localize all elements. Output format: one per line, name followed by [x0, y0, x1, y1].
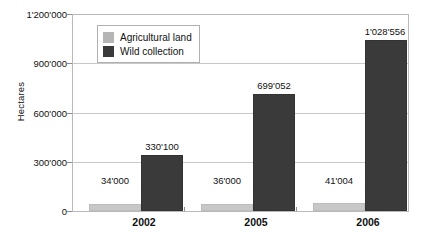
x-axis-label-2005: 2005: [200, 216, 312, 228]
legend-label-agricultural-land: Agricultural land: [120, 32, 192, 43]
gridline-600000: [73, 113, 408, 114]
bar-chart: Hectares 1'200'000 900'000 600'000 300'0…: [0, 0, 423, 244]
gridline-900000: [73, 63, 408, 64]
plot-area: 34'000 330'100 36'000 699'052 41'004 1'0…: [72, 14, 409, 212]
legend-label-wild-collection: Wild collection: [120, 46, 184, 57]
x-tick-separator-1: [184, 207, 185, 211]
bar-wild-collection-2002[interactable]: [141, 155, 183, 211]
bar-label-wild-collection-2006: 1'028'556: [345, 26, 423, 37]
y-tick-label-900000: 900'000: [0, 58, 67, 69]
gridline-300000: [73, 162, 408, 163]
bar-agricultural-land-2006[interactable]: [313, 203, 365, 211]
x-axis-label-2002: 2002: [88, 216, 200, 228]
bar-wild-collection-2006[interactable]: [365, 40, 407, 211]
y-tick-label-300000: 300'000: [0, 157, 67, 168]
x-tick-separator-2: [296, 207, 297, 211]
y-tick-label-0: 0: [0, 206, 67, 217]
bar-label-wild-collection-2005: 699'052: [240, 80, 308, 91]
bar-label-agricultural-land-2002: 34'000: [81, 175, 149, 186]
legend-swatch-icon-wild-collection: [103, 46, 114, 57]
legend: Agricultural land Wild collection: [97, 25, 200, 63]
x-axis-label-2006: 2006: [312, 216, 423, 228]
bar-agricultural-land-2005[interactable]: [201, 204, 253, 211]
bar-wild-collection-2005[interactable]: [253, 94, 295, 211]
bar-label-agricultural-land-2006: 41'004: [305, 175, 373, 186]
legend-swatch-icon-agricultural-land: [103, 32, 114, 43]
bar-agricultural-land-2002[interactable]: [89, 204, 141, 211]
bar-label-agricultural-land-2005: 36'000: [193, 175, 261, 186]
bar-label-wild-collection-2002: 330'100: [128, 141, 196, 152]
y-axis-title: Hectares: [15, 62, 26, 142]
legend-entry-agricultural-land[interactable]: Agricultural land: [103, 30, 192, 44]
y-tick-label-1200000: 1'200'000: [0, 9, 67, 20]
legend-entry-wild-collection[interactable]: Wild collection: [103, 44, 192, 58]
y-tick-label-600000: 600'000: [0, 108, 67, 119]
